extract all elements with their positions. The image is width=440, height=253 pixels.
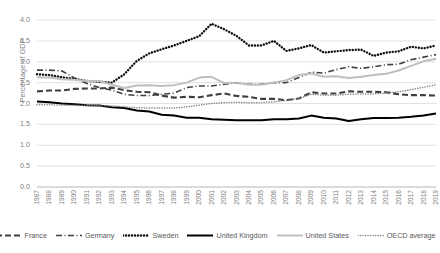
- legend-label: OECD average: [387, 231, 436, 240]
- legend-label: Germany: [85, 231, 115, 240]
- chart-legend: FranceGermanySwedenUnited KingdomUnited …: [0, 231, 440, 240]
- legend-swatch-sweden: [123, 231, 149, 240]
- legend-item[interactable]: Sweden: [123, 231, 187, 240]
- legend-item[interactable]: United Kingdom: [187, 231, 276, 240]
- series-line-sweden: [37, 24, 436, 83]
- legend-swatch-oecd-average: [358, 231, 384, 240]
- legend-item[interactable]: United States: [277, 231, 358, 240]
- legend-swatch-united-states: [277, 231, 303, 240]
- legend-item[interactable]: OECD average: [358, 231, 440, 240]
- legend-swatch-united-kingdom: [187, 231, 213, 240]
- series-line-united-kingdom: [37, 101, 436, 121]
- legend-item[interactable]: Germany: [56, 231, 124, 240]
- legend-label: France: [25, 231, 47, 240]
- legend-item[interactable]: France: [0, 231, 56, 240]
- legend-swatch-france: [0, 231, 22, 240]
- plot-area: [0, 0, 440, 253]
- chart-container: Percentage of GDP 0.00.51.01.52.02.53.03…: [0, 0, 440, 253]
- legend-label: United Kingdom: [216, 231, 267, 240]
- legend-label: United States: [306, 231, 349, 240]
- legend-swatch-germany: [56, 231, 82, 240]
- legend-label: Sweden: [152, 231, 178, 240]
